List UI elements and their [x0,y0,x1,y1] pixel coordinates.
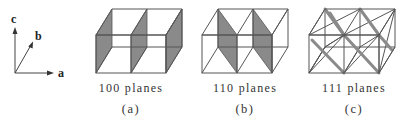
panel-a-caption: 100 planes [99,81,164,95]
plane-100-middle [131,9,147,73]
c-axis-label: c [11,12,17,26]
b-axis-label: b [35,29,42,43]
edge [379,9,395,73]
panel-b-110-planes: 110 planes (b) [202,9,288,116]
b-axis-line [15,45,31,73]
panel-c-111-planes: 111 planes (c) [309,9,395,116]
crystal-planes-figure: c b a 100 planes (a) [0,0,409,126]
panel-c-sublabel: (c) [345,102,363,116]
b-axis-arrowhead-icon [28,42,33,49]
panel-b-caption: 110 planes [213,81,277,95]
panel-b-sublabel: (b) [235,102,254,116]
plane-111-band [330,13,344,35]
a-axis-arrowhead-icon [47,71,54,76]
plane-110-right [253,9,272,73]
plane-100-left [96,9,112,73]
a-axis-label: a [58,66,64,80]
edge [272,9,288,73]
panel-a-sublabel: (a) [122,102,140,116]
edge [237,47,253,73]
panel-c-caption: 111 planes [322,81,386,95]
c-axis-arrowhead-icon [13,27,18,34]
plane-100-right [166,9,182,73]
plane-111-band [360,9,379,35]
edge [237,9,253,35]
plane-110-left [218,9,237,73]
panel-a-100-planes: 100 planes (a) [96,9,182,116]
edge [202,47,218,73]
axes-diagram: c b a [11,12,64,80]
